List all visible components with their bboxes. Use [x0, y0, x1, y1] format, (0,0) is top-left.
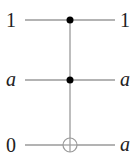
input-label-1: 1: [6, 9, 16, 31]
control-dot-2: [67, 77, 74, 84]
output-label-2: a: [120, 68, 130, 90]
target-xor-icon: [63, 138, 77, 152]
output-label-1: 1: [120, 9, 130, 31]
input-label-3: 0: [6, 134, 16, 155]
input-label-2: a: [6, 68, 16, 90]
control-dot-1: [67, 17, 74, 24]
output-label-3: a: [120, 133, 130, 155]
circuit-diagram: 1 1 a a 0 a: [0, 0, 140, 155]
